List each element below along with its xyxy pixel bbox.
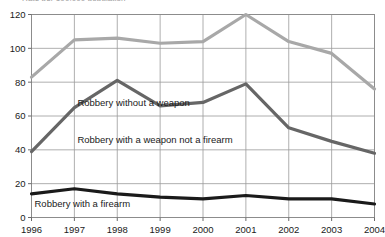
x-axis-labels: 199619971998199920002001200220032004 xyxy=(21,224,385,235)
line-chart: 020406080100120 199619971998199920002001… xyxy=(0,0,385,237)
x-axis-tick-marks xyxy=(32,218,375,222)
chart-container: Rate per 100,000 population 020406080100… xyxy=(0,0,385,237)
x-axis-tick-label: 1998 xyxy=(107,224,128,235)
x-axis-tick-label: 2003 xyxy=(321,224,342,235)
y-axis-tick-label: 60 xyxy=(15,110,26,121)
x-axis-tick-label: 2001 xyxy=(235,224,256,235)
series-label: Robbery without a weapon xyxy=(77,97,190,108)
x-axis-tick-label: 1997 xyxy=(64,224,85,235)
series-label-group: Robbery with a firearm xyxy=(35,198,131,209)
y-axis-labels: 020406080100120 xyxy=(10,9,26,223)
x-axis-tick-label: 2000 xyxy=(192,224,213,235)
x-axis-tick-label: 2004 xyxy=(364,224,385,235)
y-axis-tick-label: 40 xyxy=(15,144,26,155)
series-label: Robbery with a firearm xyxy=(35,198,131,209)
series-label-group: Robbery without a weapon xyxy=(77,97,190,108)
y-axis-tick-marks xyxy=(28,15,32,218)
series-label: Robbery with a weapon not a firearm xyxy=(77,134,232,145)
x-axis-tick-label: 1999 xyxy=(150,224,171,235)
y-axis-tick-label: 80 xyxy=(15,77,26,88)
x-axis-tick-label: 1996 xyxy=(21,224,42,235)
series-label-group: Robbery with a weapon not a firearm xyxy=(77,134,232,145)
x-axis-tick-label: 2002 xyxy=(278,224,299,235)
y-axis-tick-label: 120 xyxy=(10,9,26,20)
y-axis-tick-label: 20 xyxy=(15,178,26,189)
y-axis-tick-label: 0 xyxy=(20,212,25,223)
y-axis-tick-label: 100 xyxy=(10,43,26,54)
